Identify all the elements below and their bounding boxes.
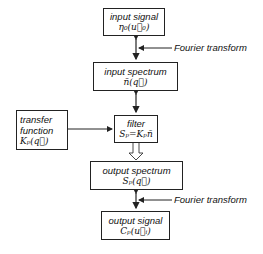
input-signal-formula: η₀(u⃗₀) bbox=[119, 22, 150, 33]
input-spectrum-title: input spectrum bbox=[104, 66, 166, 77]
input-signal-box: input signal η₀(u⃗₀) bbox=[103, 8, 165, 36]
filter-formula: Sₚ=Kₚñ bbox=[119, 129, 152, 140]
fourier-label-bottom: Fourier transform bbox=[174, 194, 247, 205]
fourier-label-top: Fourier transform bbox=[174, 42, 247, 53]
input-signal-title: input signal bbox=[110, 11, 158, 22]
hollow-arrow-filter-output bbox=[129, 143, 143, 160]
filter-box: filter Sₚ=Kₚñ bbox=[114, 115, 158, 143]
transfer-function-formula: Kₚ(q⃗) bbox=[20, 136, 49, 147]
output-signal-box: output signal Cₚ(u⃗ᵢ) bbox=[101, 211, 170, 240]
input-spectrum-formula: ñ(q⃗) bbox=[124, 77, 148, 88]
output-spectrum-box: output spectrum Sₚ(q⃗) bbox=[90, 161, 183, 190]
transfer-function-line2: function bbox=[20, 125, 53, 136]
output-signal-title: output signal bbox=[109, 215, 163, 226]
output-spectrum-formula: Sₚ(q⃗) bbox=[123, 176, 151, 187]
transfer-function-line1: transfer bbox=[20, 114, 52, 125]
transfer-function-box: transfer function Kₚ(q⃗) bbox=[16, 110, 68, 150]
input-spectrum-box: input spectrum ñ(q⃗) bbox=[93, 62, 178, 91]
output-spectrum-title: output spectrum bbox=[102, 165, 170, 176]
filter-title: filter bbox=[127, 118, 145, 129]
output-signal-formula: Cₚ(u⃗ᵢ) bbox=[120, 226, 151, 237]
